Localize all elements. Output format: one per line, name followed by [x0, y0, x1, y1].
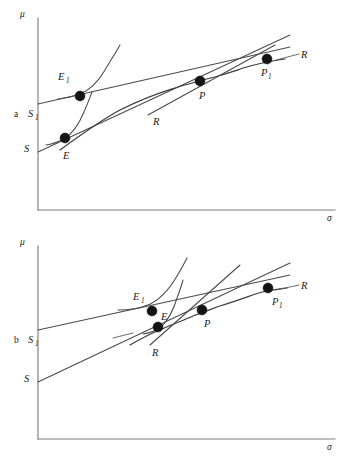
panel-b-line-S	[38, 263, 290, 382]
panel-b-label-R-ray: R	[151, 347, 159, 358]
panel-a-label-S1-base: S	[28, 108, 34, 119]
panel-a-label-R-curve: R	[300, 49, 308, 60]
panel-b-label-R-curve: R	[300, 280, 308, 291]
panel-b-label-S1-sub: 1	[35, 340, 39, 348]
panel-a-line-R-ray	[148, 45, 275, 115]
panel-a-x-axis-label: σ	[327, 213, 332, 223]
panel-b-letter: b	[14, 335, 19, 345]
panel-a-label-E: E	[62, 150, 70, 161]
panel-b-pointer-R-ray	[113, 333, 133, 338]
panel-a-label-P1-sub: 1	[268, 73, 272, 81]
panel-a: μ σ a S 1 S R R E 1 E P P 1	[0, 0, 347, 228]
panel-b-label-S1-base: S	[28, 334, 34, 345]
panel-a-label-P: P	[198, 90, 206, 101]
panel-b-label-E1-base: E	[132, 291, 140, 302]
panel-b-label-E: E	[160, 311, 168, 322]
panel-a-label-E1-base: E	[57, 71, 65, 82]
panel-a-label-E1-sub: 1	[66, 77, 70, 85]
panel-b-marker-P	[197, 305, 207, 315]
panel-a-marker-P	[195, 76, 205, 86]
panel-b-curve-R	[130, 288, 287, 345]
panel-a-curve-R	[60, 59, 285, 150]
panel-a-marker-P1	[262, 54, 272, 64]
panel-a-label-S: S	[24, 143, 30, 154]
panel-a-label-S1-sub: 1	[35, 114, 39, 122]
panel-b-pointer-R-curve	[276, 285, 299, 290]
panel-b-line-R-ray	[150, 265, 240, 345]
panel-b-marker-E	[153, 322, 163, 332]
panel-b-marker-P1	[263, 283, 273, 293]
panel-b: μ σ b S 1 S R R E 1 E P P 1	[0, 228, 347, 456]
panel-b-y-axis-label: μ	[19, 237, 25, 247]
panel-b-label-S: S	[24, 373, 30, 384]
figure-root: μ σ a S 1 S R R E 1 E P P 1	[0, 0, 347, 456]
panel-a-indifference-curve-E1	[58, 45, 120, 99]
panel-b-label-P1-sub: 1	[279, 302, 283, 310]
panel-a-pointer-R-curve	[276, 54, 299, 60]
panel-a-label-P1-base: P	[260, 67, 268, 78]
panel-a-y-axis-label: μ	[19, 9, 25, 19]
panel-a-letter: a	[14, 109, 19, 119]
panel-b-label-P: P	[203, 318, 211, 329]
panel-a-marker-E	[60, 133, 70, 143]
panel-b-x-axis-label: σ	[327, 442, 332, 452]
panel-b-label-P1-base: P	[271, 296, 279, 307]
panel-b-label-E1-sub: 1	[141, 297, 145, 305]
panel-b-marker-E1	[147, 306, 157, 316]
panel-a-marker-E1	[75, 91, 85, 101]
panel-b-indifference-curve-E1	[118, 258, 187, 310]
panel-a-label-R-ray: R	[152, 116, 160, 127]
